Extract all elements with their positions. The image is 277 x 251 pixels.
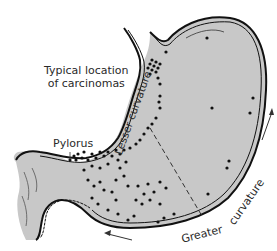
stomach-diagram: Typical location of carcinomas Pylorus L… <box>0 0 277 251</box>
